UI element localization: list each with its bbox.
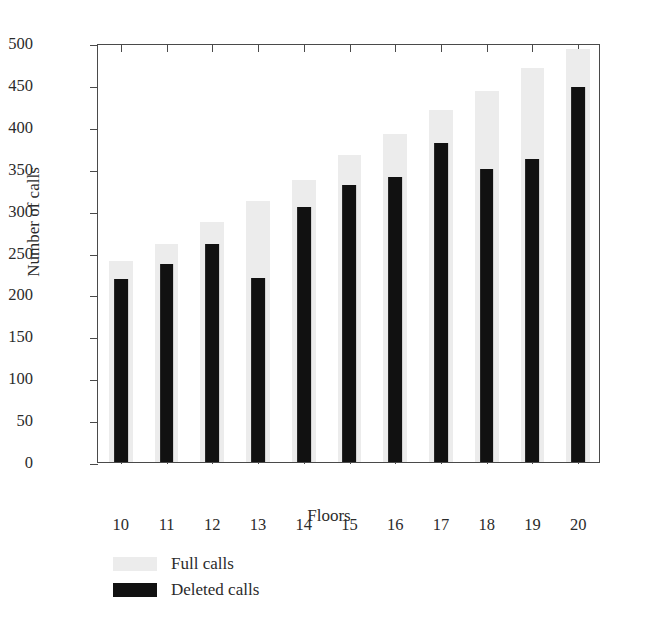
bar-deleted-calls bbox=[160, 264, 174, 462]
bar-deleted-calls bbox=[571, 87, 585, 462]
y-axis-tick bbox=[90, 422, 98, 423]
y-axis-tick bbox=[90, 87, 98, 88]
bar-deleted-calls bbox=[480, 169, 494, 462]
y-axis-tick-label: 0 bbox=[0, 455, 33, 472]
y-axis-tick bbox=[90, 171, 98, 172]
plot-area: 050100150200250300350400450500 101112131… bbox=[97, 44, 600, 463]
bar-deleted-calls bbox=[526, 159, 540, 462]
y-axis-tick bbox=[90, 45, 98, 46]
bar-group bbox=[475, 43, 499, 462]
legend-label: Full calls bbox=[171, 554, 234, 574]
y-axis-tick-label: 450 bbox=[0, 78, 33, 95]
y-axis-tick bbox=[90, 338, 98, 339]
bar-group bbox=[246, 43, 270, 462]
legend-label: Deleted calls bbox=[171, 580, 259, 600]
bar-group bbox=[566, 43, 590, 462]
chart-figure: Number of calls 050100150200250300350400… bbox=[0, 0, 658, 625]
legend-swatch bbox=[113, 583, 157, 597]
bar-deleted-calls bbox=[388, 177, 402, 462]
legend-swatch bbox=[113, 557, 157, 571]
bar-deleted-calls bbox=[297, 207, 311, 462]
legend-item: Full calls bbox=[113, 551, 259, 577]
y-axis-tick-label: 350 bbox=[0, 162, 33, 179]
bar-group bbox=[109, 43, 133, 462]
bar-deleted-calls bbox=[251, 278, 265, 462]
x-axis-title: Floors bbox=[0, 506, 658, 526]
y-axis-tick bbox=[90, 380, 98, 381]
y-axis-tick-label: 150 bbox=[0, 329, 33, 346]
y-axis-tick bbox=[90, 213, 98, 214]
bar-deleted-calls bbox=[205, 244, 219, 462]
bar-deleted-calls bbox=[343, 185, 357, 462]
legend-item: Deleted calls bbox=[113, 577, 259, 603]
bars-layer bbox=[98, 45, 599, 462]
bar-group bbox=[155, 43, 179, 462]
bar-group bbox=[338, 43, 362, 462]
y-axis-tick bbox=[90, 255, 98, 256]
bar-group bbox=[429, 43, 453, 462]
y-axis-tick-label: 50 bbox=[0, 413, 33, 430]
y-axis-tick-label: 300 bbox=[0, 204, 33, 221]
y-axis-tick-label: 500 bbox=[0, 36, 33, 53]
y-axis-tick bbox=[90, 129, 98, 130]
chart-legend: Full callsDeleted calls bbox=[113, 551, 259, 603]
bar-group bbox=[521, 43, 545, 462]
bar-deleted-calls bbox=[434, 143, 448, 462]
bar-group bbox=[200, 43, 224, 462]
bar-group bbox=[292, 43, 316, 462]
y-axis-tick-label: 100 bbox=[0, 371, 33, 388]
bar-deleted-calls bbox=[114, 279, 128, 462]
y-axis-tick-label: 400 bbox=[0, 120, 33, 137]
y-axis-tick bbox=[90, 296, 98, 297]
y-axis-tick-label: 250 bbox=[0, 246, 33, 263]
y-axis-tick-label: 200 bbox=[0, 287, 33, 304]
bar-group bbox=[383, 43, 407, 462]
y-axis-tick bbox=[90, 464, 98, 465]
